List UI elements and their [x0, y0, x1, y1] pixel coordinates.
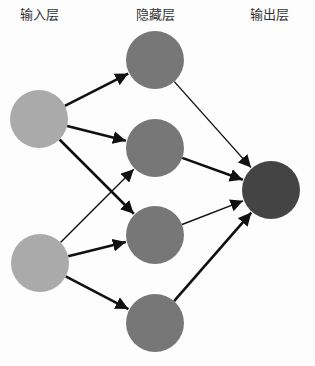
edge-i1-h3	[60, 140, 134, 214]
input-node-i2	[11, 234, 69, 292]
edge-i2-h3	[68, 242, 126, 256]
network-graph	[0, 0, 315, 366]
edge-i1-h1	[65, 74, 128, 106]
edge-i1-h2	[67, 126, 126, 141]
edges	[60, 74, 252, 310]
hidden-node-h4	[126, 294, 184, 352]
edge-h4-o1	[174, 213, 251, 302]
nodes	[10, 31, 300, 352]
input-node-i1	[10, 90, 68, 148]
edge-i2-h2	[61, 169, 134, 242]
neural-network-diagram: 输入层 隐藏层 输出层	[0, 0, 315, 366]
hidden-node-h1	[126, 31, 184, 89]
edge-i2-h4	[66, 276, 129, 309]
edge-h1-o1	[174, 82, 251, 168]
edge-h2-o1	[182, 158, 243, 180]
edge-h3-o1	[182, 201, 243, 225]
hidden-node-h3	[126, 206, 184, 264]
output-node-o1	[242, 161, 300, 219]
hidden-node-h2	[126, 119, 184, 177]
